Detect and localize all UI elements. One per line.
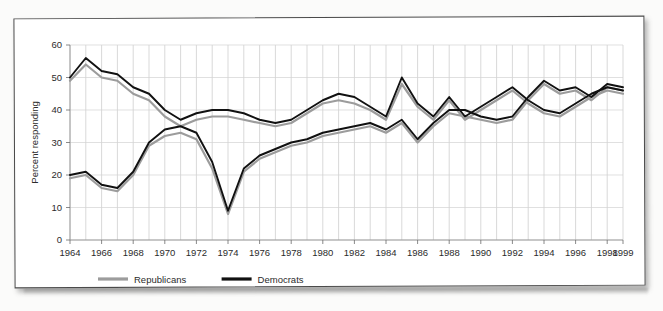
y-tick-20: 20 [51, 169, 62, 180]
legend-label-republicans: Republicans [134, 274, 187, 285]
y-tick-10: 10 [51, 202, 62, 213]
x-tick-1976: 1976 [249, 247, 270, 258]
x-tick-1968: 1968 [123, 247, 144, 258]
y-tick-40: 40 [51, 104, 62, 115]
x-tick-1982: 1982 [344, 247, 365, 258]
y-tick-60: 60 [51, 39, 62, 50]
x-tick-1988: 1988 [439, 247, 460, 258]
y-tick-30: 30 [51, 137, 62, 148]
x-tick-1994: 1994 [533, 247, 554, 258]
legend-label-democrats: Democrats [258, 274, 304, 285]
series-line-0 [70, 58, 623, 123]
x-tick-1990: 1990 [470, 247, 491, 258]
x-tick-1980: 1980 [312, 247, 333, 258]
chart-figure: 0102030405060 19641966196819701972197419… [0, 0, 663, 311]
y-axis-title: Percent responding [29, 101, 40, 183]
y-tick-0: 0 [57, 234, 62, 245]
x-tick-1986: 1986 [407, 247, 428, 258]
screenshot-page: 0102030405060 19641966196819701972197419… [0, 0, 663, 311]
x-tick-1974: 1974 [217, 247, 238, 258]
x-tick-1984: 1984 [375, 247, 396, 258]
x-tick-1966: 1966 [91, 247, 112, 258]
series-line-2 [70, 81, 623, 211]
chart-legend: RepublicansDemocrats [98, 274, 304, 285]
y-tick-50: 50 [51, 72, 62, 83]
x-tick-1970: 1970 [154, 247, 175, 258]
chart-series-lines [70, 58, 623, 214]
x-tick-1978: 1978 [281, 247, 302, 258]
y-axis-tick-labels: 0102030405060 [51, 39, 62, 245]
line-chart-svg: 0102030405060 19641966196819701972197419… [0, 0, 663, 311]
x-tick-1992: 1992 [502, 247, 523, 258]
x-tick-1996: 1996 [565, 247, 586, 258]
x-axis-tick-labels: 1964196619681970197219741976197819801982… [59, 247, 633, 258]
x-tick-1999: 1999 [612, 247, 633, 258]
x-tick-1972: 1972 [186, 247, 207, 258]
x-tick-1964: 1964 [59, 247, 80, 258]
